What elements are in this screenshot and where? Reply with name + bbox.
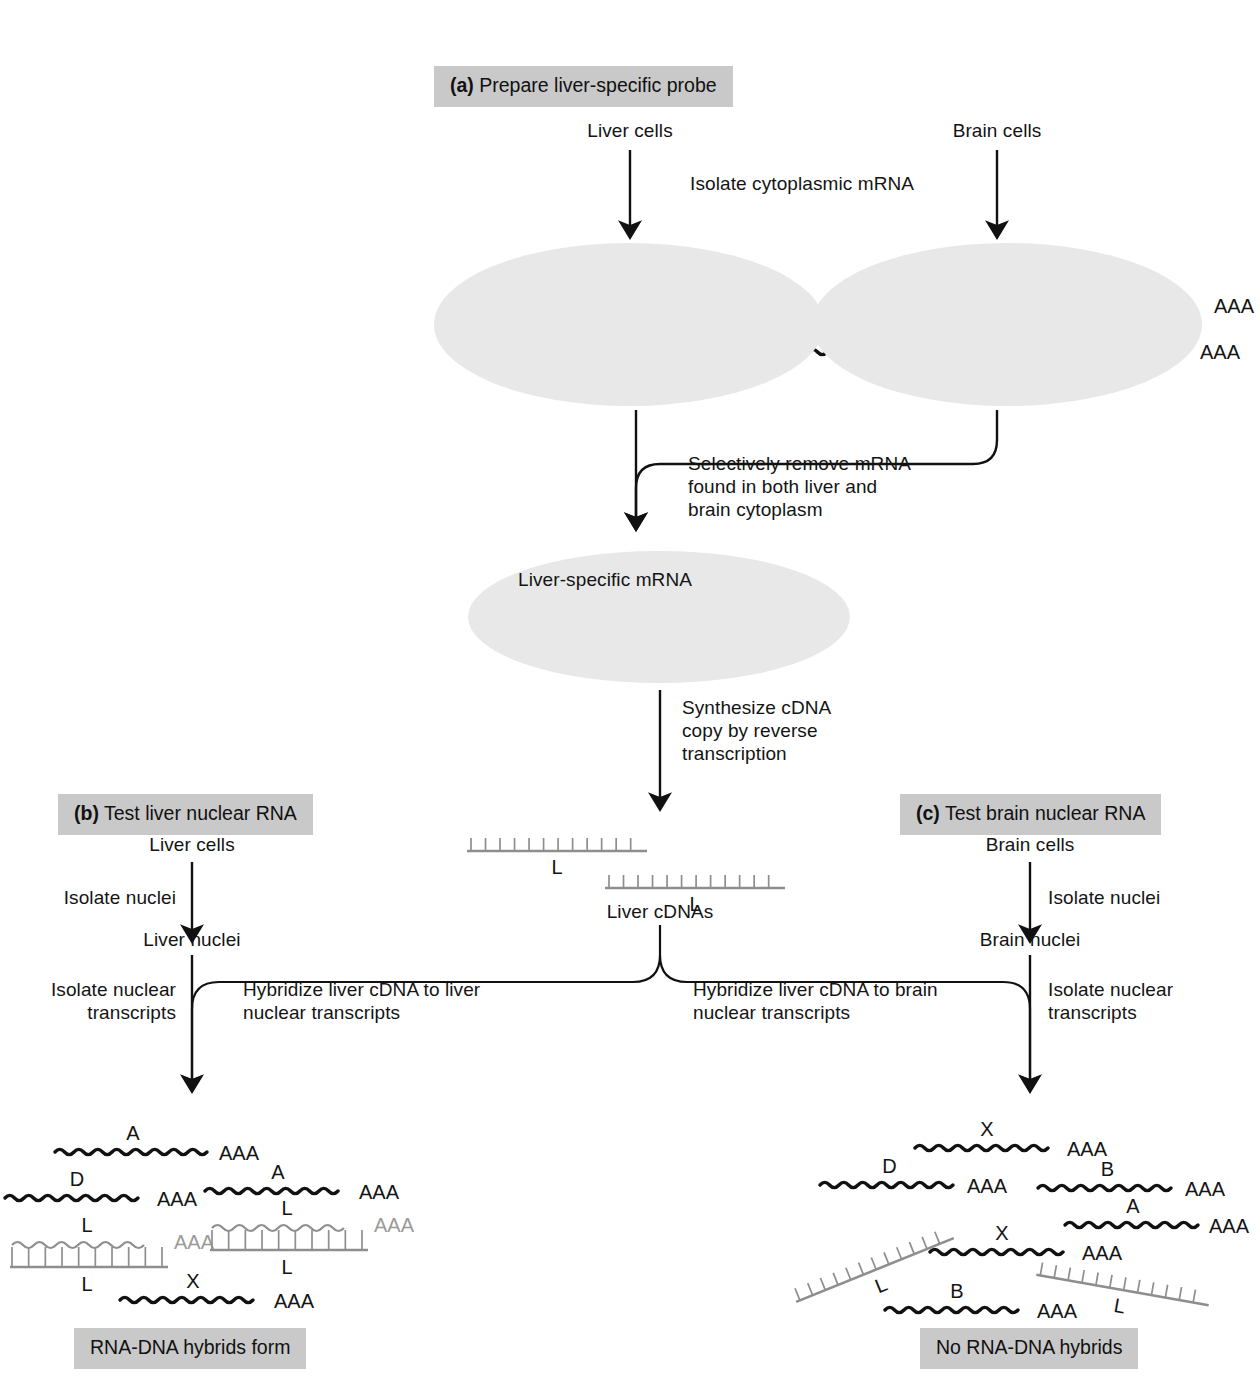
panel-b-strand-D-polya-tail: AAA: [157, 1188, 198, 1210]
panel-a-header: (a) Prepare liver-specific probe: [434, 66, 733, 107]
panel-b-hybrid-0-upper-letter: L: [81, 1214, 92, 1236]
panel-c-strand-X2-letter: X: [995, 1222, 1008, 1244]
panel-c-strand-A-letter: A: [1126, 1195, 1140, 1217]
panel-c-strand-B1-polya-tail: AAA: [1185, 1178, 1226, 1200]
panel-b-strand-A2-polya-tail: AAA: [359, 1181, 400, 1203]
panel-c-strand-X1-letter: X: [980, 1118, 993, 1140]
isolate-transcripts-label-c: Isolate nuclear transcripts: [1048, 978, 1173, 1024]
isolate-nuclei-label-c: Isolate nuclei: [1048, 886, 1160, 909]
panel-b-hybrid-1-polya-tail: AAA: [374, 1214, 415, 1236]
panel-c-free-cdna-1-tooth: [1151, 1282, 1153, 1295]
panel-c-free-cdna-0-tooth: [897, 1247, 902, 1259]
panel-c-free-cdna-0-tooth: [909, 1242, 914, 1254]
liver-cdna-probe-0: L: [467, 838, 647, 878]
panel-c-free-cdna-1-tooth: [1096, 1273, 1098, 1286]
diagram-vector-layer: AAAALAAADAAAXAAALAAAXAAABAAADAAAAAAAXAAA…: [0, 0, 1260, 1400]
liver-cytoplasm-oval: [434, 243, 824, 406]
panel-b-hybrid-1-upper-letter: L: [281, 1197, 292, 1219]
panel-c-strand-X2-backbone: [930, 1249, 1063, 1254]
panel-c-strand-A-polya-tail: AAA: [1209, 1215, 1250, 1237]
synthesize-cdna-label: Synthesize cDNA copy by reverse transcri…: [682, 696, 831, 765]
brain-cyto-strand-1-polya-tail: AAA: [1214, 295, 1255, 317]
panel-b-tag: (b): [74, 802, 99, 824]
panel-b-transcripts: AAAAAAAADAAALLAAALLAAAXAAA: [5, 1122, 415, 1312]
panel-c-free-cdna-0-tooth: [795, 1288, 800, 1300]
liver-specific-mrna-label: Liver-specific mRNA: [518, 568, 692, 591]
panel-b-header: (b) Test liver nuclear RNA: [58, 794, 313, 835]
panel-c-free-cdna-1-tooth: [1138, 1280, 1140, 1293]
liver-cells-label-a: Liver cells: [587, 119, 673, 142]
isolate-cytoplasmic-mrna-label: Isolate cytoplasmic mRNA: [690, 172, 914, 195]
panel-a-title: Prepare liver-specific probe: [479, 74, 716, 96]
panel-b-hybrid-0: LLAAA: [10, 1214, 215, 1295]
brain-nuclei-label: Brain nuclei: [980, 928, 1080, 951]
figure-canvas: AAAALAAADAAAXAAALAAAXAAABAAADAAAAAAAXAAA…: [0, 0, 1260, 1400]
panel-c-free-cdna-1-letter: L: [1112, 1294, 1127, 1318]
panel-c-strand-D-backbone: [820, 1182, 953, 1187]
panel-c-free-cdna-1-tooth: [1054, 1265, 1056, 1278]
panel-b-strand-X-polya-tail: AAA: [274, 1290, 315, 1312]
panel-c-free-cdna-1-tooth: [1193, 1290, 1195, 1303]
panel-c-free-cdna-1-tooth: [1165, 1285, 1167, 1298]
panel-c-free-cdna-1-tooth: [1110, 1275, 1112, 1288]
panel-b-strand-A2-backbone: [205, 1188, 338, 1193]
panel-b-strand-A2-letter: A: [271, 1161, 285, 1183]
panel-c-result-box: No RNA-DNA hybrids: [920, 1328, 1138, 1369]
liver-nuclei-label: Liver nuclei: [143, 928, 240, 951]
panel-c-strand-B2-letter: B: [950, 1280, 963, 1302]
panel-c-free-cdna-1-tooth: [1179, 1287, 1181, 1300]
panel-c-free-cdna-0-tooth: [859, 1263, 864, 1275]
liver-cdna-probe-0-letter: L: [551, 856, 562, 878]
panel-c-strand-B1-backbone: [1038, 1185, 1171, 1190]
panel-b-strand-D-backbone: [5, 1195, 138, 1200]
hybridize-brain-label: Hybridize liver cDNA to brain nuclear tr…: [693, 978, 938, 1024]
panel-b-strand-A1-backbone: [55, 1149, 207, 1154]
panel-c-strand-B1-letter: B: [1101, 1158, 1114, 1180]
panel-c-free-cdna-1-tooth: [1068, 1268, 1070, 1281]
liver-cells-label-b: Liver cells: [149, 833, 235, 856]
panel-c-free-cdna-1-tooth: [1040, 1263, 1042, 1276]
panel-c-header: (c) Test brain nuclear RNA: [900, 794, 1161, 835]
panel-b-hybrid-0-lower-letter: L: [81, 1273, 92, 1295]
panel-c-free-cdna-0-tooth: [820, 1278, 825, 1290]
panel-c-free-cdna-0-tooth: [846, 1268, 851, 1280]
panel-c-free-cdna-1-tooth: [1124, 1277, 1126, 1290]
panel-c-tag: (c): [916, 802, 940, 824]
hybridize-liver-label: Hybridize liver cDNA to liver nuclear tr…: [243, 978, 480, 1024]
panel-c-free-cdna-1-tooth: [1082, 1270, 1084, 1283]
panel-b-title: Test liver nuclear RNA: [104, 802, 297, 824]
panel-c-strand-D-polya-tail: AAA: [967, 1175, 1008, 1197]
panel-c-free-cdna-0-tooth: [871, 1257, 876, 1269]
panel-c-free-cdna-0-tooth: [935, 1232, 940, 1244]
panel-c-free-cdna-0-tooth: [922, 1237, 927, 1249]
panel-c-free-cdna-0-tooth: [884, 1252, 889, 1264]
panel-a-tag: (a): [450, 74, 474, 96]
panel-b-result-box: RNA-DNA hybrids form: [74, 1328, 306, 1369]
panel-b-strand-X-letter: X: [186, 1270, 199, 1292]
panel-b-strand-X-backbone: [120, 1297, 253, 1302]
panel-b-strand-A1-polya-tail: AAA: [219, 1142, 260, 1164]
panel-c-transcripts: XAAADAAABAAAAAAAXAAABAAALL: [791, 1118, 1249, 1332]
brain-cells-label-c: Brain cells: [986, 833, 1075, 856]
panel-c-strand-X1-polya-tail: AAA: [1067, 1138, 1108, 1160]
panel-c-title: Test brain nuclear RNA: [945, 802, 1146, 824]
panel-b-hybrid-1-lower-letter: L: [281, 1256, 292, 1278]
remove-shared-mrna-label: Selectively remove mRNA found in both li…: [688, 452, 911, 521]
panel-c-strand-B2-polya-tail: AAA: [1037, 1300, 1078, 1322]
panel-c-strand-X1-backbone: [915, 1145, 1048, 1150]
panel-b-hybrid-1: LLAAA: [210, 1197, 415, 1278]
panel-c-free-cdna-0-tooth: [808, 1283, 813, 1295]
panel-c-free-cdna-0-tooth: [833, 1273, 838, 1285]
panel-c-strand-X2-polya-tail: AAA: [1082, 1242, 1123, 1264]
panel-c-strand-A-backbone: [1065, 1222, 1198, 1227]
brain-cells-label-a: Brain cells: [953, 119, 1042, 142]
panel-c-strand-B2-backbone: [885, 1307, 1018, 1312]
brain-cyto-strand-3-polya-tail: AAA: [1200, 341, 1241, 363]
panel-b-strand-D-letter: D: [70, 1168, 84, 1190]
panel-c-free-cdna-0-backbone: [796, 1238, 954, 1302]
isolate-nuclei-label-b: Isolate nuclei: [64, 886, 176, 909]
isolate-transcripts-label-b: Isolate nuclear transcripts: [51, 978, 176, 1024]
panel-b-hybrid-0-polya-tail: AAA: [174, 1231, 215, 1253]
panel-c-strand-D-letter: D: [882, 1155, 896, 1177]
brain-cytoplasm-oval: [812, 243, 1202, 406]
